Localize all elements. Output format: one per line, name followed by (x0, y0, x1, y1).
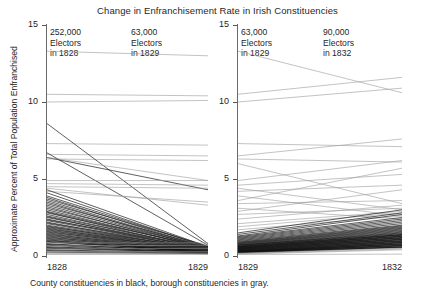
slope-line-borough (238, 168, 402, 200)
slope-line-borough (238, 161, 402, 181)
slope-line-borough (238, 77, 402, 94)
slope-line-borough (238, 139, 402, 156)
slope-line-borough (238, 201, 402, 204)
slope-line-borough (238, 88, 402, 102)
chart-footnote: County constituencies in black, borough … (30, 278, 269, 288)
slope-lines (0, 0, 435, 301)
slope-line-borough (238, 185, 402, 191)
slope-line-borough (238, 144, 402, 147)
slope-line-borough (238, 205, 402, 219)
slope-line-borough (238, 190, 402, 212)
chart-root: Change in Enfranchisement Rate in Irish … (0, 0, 435, 301)
slope-line-borough (238, 159, 402, 162)
slope-line-borough (238, 51, 402, 93)
